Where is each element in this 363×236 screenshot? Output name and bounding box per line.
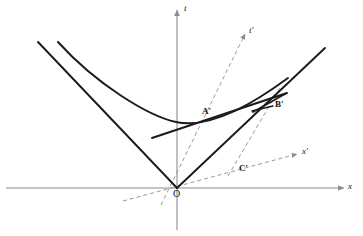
x-axis-label: x <box>348 182 352 191</box>
point-label-c-prime: C' <box>239 164 248 173</box>
x-prime-axis-label: x' <box>302 147 308 156</box>
point-label-o: O <box>173 189 180 199</box>
t-axis-label: t <box>184 4 187 13</box>
point-label-b-prime: B' <box>275 100 284 109</box>
spacetime-diagram-canvas: t t' x x' O A' B' C' <box>0 0 363 236</box>
minkowski-diagram-svg <box>0 0 363 236</box>
t-prime-axis-label: t' <box>249 26 253 35</box>
point-label-a-prime: A' <box>202 107 211 116</box>
light-cone-right-line <box>177 48 325 188</box>
x-prime-axis-line <box>123 154 297 201</box>
tangent-line-at-a-prime <box>152 93 287 138</box>
t-prime-axis-line <box>161 34 245 205</box>
